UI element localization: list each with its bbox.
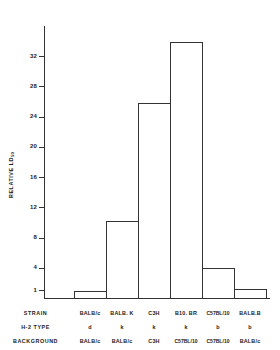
plot-area bbox=[44, 26, 270, 299]
y-axis-title-subscript: 50 bbox=[10, 152, 15, 157]
row-header-h2-type: H-2 TYPE bbox=[0, 324, 74, 330]
row-cells-h2-type: d k k k b b bbox=[74, 324, 266, 330]
y-tick-label: 28 bbox=[15, 83, 37, 89]
y-tick-label: 16 bbox=[15, 174, 37, 180]
cell-strain-2: C3H bbox=[138, 310, 170, 316]
y-tick-label: 20 bbox=[15, 143, 37, 149]
y-tick-label: 32 bbox=[15, 53, 37, 59]
cell-strain-1: BALB. K bbox=[106, 310, 138, 316]
table-row: BACKGROUND BALB/c BALB/c C3H C57BL/10 C5… bbox=[0, 334, 280, 347]
bar-c57bl-10 bbox=[202, 268, 235, 299]
cell-h2-1: k bbox=[106, 324, 138, 330]
cell-background-1: BALB/c bbox=[106, 338, 138, 344]
cell-h2-5: b bbox=[234, 324, 266, 330]
bar-b10-br bbox=[170, 42, 203, 299]
cell-h2-4: b bbox=[202, 324, 234, 330]
cell-strain-3: B10. BR bbox=[170, 310, 202, 316]
chart-figure: RELATIVE LD50 148121620242832 STRAIN BAL… bbox=[0, 0, 280, 350]
cell-strain-4: C57BL/10 bbox=[202, 310, 234, 316]
y-tick-label: 24 bbox=[15, 113, 37, 119]
cell-h2-3: k bbox=[170, 324, 202, 330]
y-tick-label: 1 bbox=[15, 287, 37, 293]
table-row: H-2 TYPE d k k k b b bbox=[0, 320, 280, 333]
y-tick-label: 8 bbox=[15, 234, 37, 240]
bar-c3h bbox=[138, 103, 171, 299]
cell-h2-0: d bbox=[74, 324, 106, 330]
row-header-background: BACKGROUND bbox=[0, 338, 74, 344]
cell-strain-5: BALB.B bbox=[234, 310, 266, 316]
row-cells-strain: BALB/c BALB. K C3H B10. BR C57BL/10 BALB… bbox=[74, 310, 266, 316]
cell-background-0: BALB/c bbox=[74, 338, 106, 344]
y-tick-label: 12 bbox=[15, 204, 37, 210]
bar-balb-k bbox=[106, 221, 139, 299]
cell-strain-0: BALB/c bbox=[74, 310, 106, 316]
table-row: STRAIN BALB/c BALB. K C3H B10. BR C57BL/… bbox=[0, 306, 280, 319]
bar-group bbox=[74, 26, 266, 299]
y-tick-label: 4 bbox=[15, 264, 37, 270]
row-cells-background: BALB/c BALB/c C3H C57BL/10 C57BL/10 BALB… bbox=[74, 338, 266, 344]
y-axis-title-text: RELATIVE LD bbox=[8, 157, 14, 198]
cell-h2-2: k bbox=[138, 324, 170, 330]
cell-background-5: BALB/c bbox=[234, 338, 266, 344]
bar-balb-c bbox=[74, 291, 107, 299]
cell-background-4: C57BL/10 bbox=[202, 338, 234, 344]
annotation-table: STRAIN BALB/c BALB. K C3H B10. BR C57BL/… bbox=[0, 303, 280, 349]
bar-balb-b bbox=[234, 289, 267, 299]
cell-background-2: C3H bbox=[138, 338, 170, 344]
row-header-strain: STRAIN bbox=[0, 310, 74, 316]
cell-background-3: C57BL/10 bbox=[170, 338, 202, 344]
